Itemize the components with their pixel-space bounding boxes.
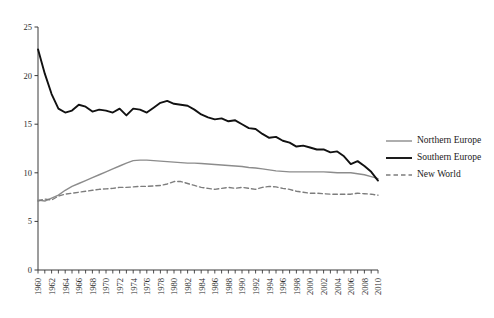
x-axis-tick-label: 2010: [373, 278, 383, 295]
x-axis-tick-label: 1986: [210, 278, 220, 295]
x-axis-tick-label: 1982: [183, 278, 193, 295]
y-axis-tick-label: 10: [24, 168, 33, 178]
x-axis-tick-label: 1978: [156, 278, 166, 295]
y-axis-tick-labels: 0510152025: [24, 22, 33, 275]
y-axis-tick-label: 0: [28, 265, 32, 275]
x-axis-tick-label: 1960: [33, 278, 43, 295]
x-axis-tick-label: 1972: [115, 278, 125, 295]
y-axis-tick-label: 25: [24, 22, 33, 32]
x-axis-tick-label: 1984: [197, 277, 207, 295]
legend-label-2: New World: [417, 169, 461, 179]
x-axis-tick-label: 1966: [74, 278, 84, 295]
x-axis-tick-label: 2002: [319, 278, 329, 295]
line-chart: 0510152025 19601962196419661968197019721…: [0, 0, 494, 318]
x-axis-tick-label: 1968: [88, 278, 98, 295]
legend-label-0: Northern Europe: [417, 135, 481, 145]
x-axis-tick-label: 1980: [169, 278, 179, 295]
x-axis-tick-labels: 1960196219641966196819701972197419761978…: [33, 277, 383, 295]
x-axis-tick-label: 2004: [333, 277, 343, 295]
x-axis-tick-label: 1976: [142, 278, 152, 295]
x-axis-tick-label: 1998: [292, 278, 302, 295]
legend-label-1: Southern Europe: [417, 152, 481, 162]
legend: Northern EuropeSouthern EuropeNew World: [386, 135, 481, 179]
x-axis-tick-label: 2000: [305, 278, 315, 295]
y-axis-tick-label: 20: [24, 71, 33, 81]
data-series-group: [38, 49, 378, 201]
x-axis-tick-label: 1974: [129, 277, 139, 295]
x-axis-tick-label: 1996: [278, 278, 288, 295]
x-axis-tick-label: 1994: [265, 277, 275, 295]
x-axis-tick-label: 1962: [47, 278, 57, 295]
series-line-northern-europe: [38, 160, 378, 201]
x-axis-tick-label: 1970: [101, 278, 111, 295]
x-axis-tick-label: 1990: [237, 278, 247, 295]
x-axis-tick-label: 1988: [224, 278, 234, 295]
series-line-new-world: [38, 182, 378, 201]
x-axis-tick-label: 2006: [346, 278, 356, 295]
x-axis-tick-label: 1964: [61, 277, 71, 295]
x-axis-tick-label: 1992: [251, 278, 261, 295]
series-line-southern-europe: [38, 49, 378, 180]
y-axis-tick-label: 5: [28, 216, 32, 226]
y-axis-tick-label: 15: [24, 119, 33, 129]
chart-canvas: 0510152025 19601962196419661968197019721…: [0, 0, 494, 318]
x-axis-tick-label: 2008: [360, 278, 370, 295]
